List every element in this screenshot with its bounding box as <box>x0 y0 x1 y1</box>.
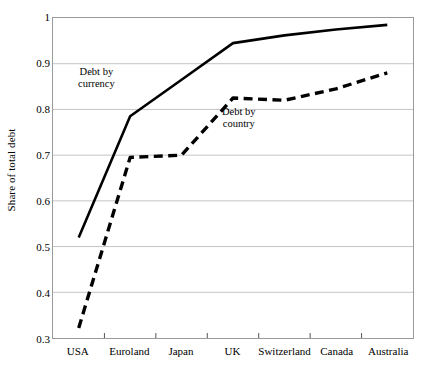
x-axis-label-australia: Australia <box>362 341 414 363</box>
y-axis-tick-0.8: 0.8 <box>20 103 50 115</box>
x-axis-label-canada: Canada <box>311 341 363 363</box>
y-axis-tick-labels: 0.30.40.50.60.70.80.91 <box>18 0 50 369</box>
gridlines <box>53 64 413 338</box>
x-axis-label-switzerland: Switzerland <box>258 341 311 363</box>
annotation-debt-by-currency: Debt by currency <box>78 66 115 90</box>
series-lines <box>79 25 388 328</box>
y-axis-tick-0.9: 0.9 <box>20 57 50 69</box>
y-axis-tick-0.7: 0.7 <box>20 149 50 161</box>
annotation-country-line2: country <box>222 118 256 130</box>
chart-figure: Share of total debt 0.30.40.50.60.70.80.… <box>0 0 429 369</box>
x-axis-label-uk: UK <box>207 341 259 363</box>
y-axis-tick-0.3: 0.3 <box>20 333 50 345</box>
y-axis-tick-0.4: 0.4 <box>20 287 50 299</box>
x-axis-label-euroland: Euroland <box>104 341 156 363</box>
y-axis-tick-1: 1 <box>20 11 50 23</box>
y-axis-tick-0.5: 0.5 <box>20 241 50 253</box>
annotation-currency-line2: currency <box>78 78 115 90</box>
y-axis-tick-0.6: 0.6 <box>20 195 50 207</box>
annotation-currency-line1: Debt by <box>78 66 115 78</box>
y-axis-title-text: Share of total debt <box>5 129 17 212</box>
x-axis-label-usa: USA <box>52 341 104 363</box>
x-axis-label-japan: Japan <box>155 341 207 363</box>
x-axis-tick-labels: USAEurolandJapanUKSwitzerlandCanadaAustr… <box>52 341 414 363</box>
annotation-country-line1: Debt by <box>222 106 256 118</box>
annotation-debt-by-country: Debt by country <box>222 106 256 130</box>
series-line-debt-by-currency <box>79 25 388 238</box>
